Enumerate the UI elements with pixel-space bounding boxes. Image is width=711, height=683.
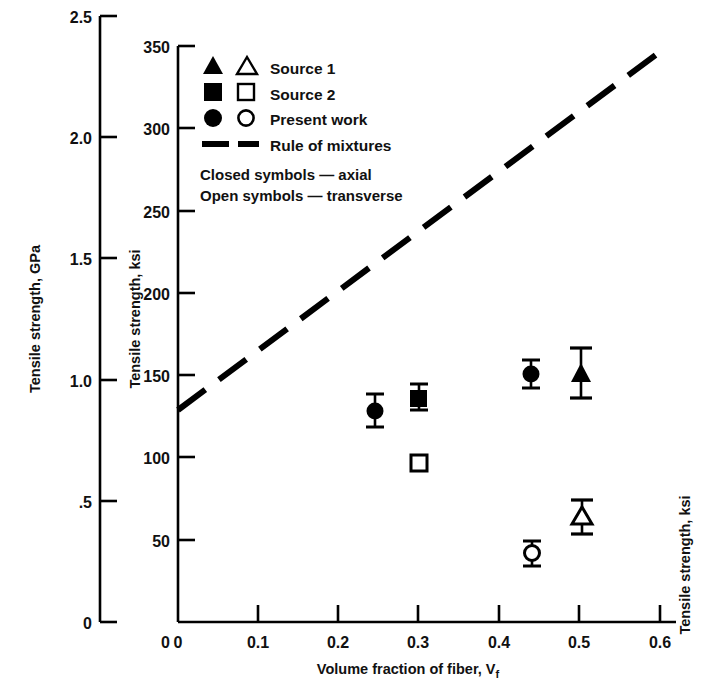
y-axis-label-gpa: Tensile strength, GPa xyxy=(27,244,43,393)
data-point-present-work-transverse xyxy=(523,541,541,566)
legend-note-open-symbols: Open symbols — transverse xyxy=(200,187,403,204)
x-tick-0.4: 0.4 xyxy=(488,634,510,651)
filled-circle-marker xyxy=(523,366,540,383)
y-axis-label-ksi-inner: Tensile strength, ksi xyxy=(127,249,143,388)
gpa-tick-0: 0 xyxy=(83,615,92,632)
ksi-tick-200: 200 xyxy=(143,286,170,303)
gpa-tick-labels: 2.5 2.0 1.5 1.0 .5 0 xyxy=(70,9,92,632)
legend-label-source-2: Source 2 xyxy=(270,86,335,103)
ksi-tick-250: 250 xyxy=(143,204,170,221)
legend-row-present-work: Present work xyxy=(204,109,368,128)
legend-filled-triangle-icon xyxy=(203,56,223,74)
ksi-tick-labels: 350 300 250 200 150 100 50 0 xyxy=(143,39,170,651)
open-square-marker xyxy=(411,455,427,471)
gpa-tick-0.5: .5 xyxy=(79,494,92,511)
ksi-tick-300: 300 xyxy=(143,121,170,138)
ksi-tick-50: 50 xyxy=(152,533,170,550)
filled-triangle-marker xyxy=(571,363,591,382)
filled-square-marker xyxy=(410,390,427,407)
x-axis-ticks xyxy=(258,605,660,622)
x-tick-labels: 0 0.1 0.2 0.3 0.4 0.5 0.6 xyxy=(174,634,672,651)
ksi-tick-100: 100 xyxy=(143,450,170,467)
gpa-axis xyxy=(100,16,117,622)
x-tick-0.5: 0.5 xyxy=(568,634,590,651)
legend-open-square-icon xyxy=(238,84,254,100)
legend-label-present-work: Present work xyxy=(270,111,368,128)
gpa-tick-1.5: 1.5 xyxy=(70,251,92,268)
x-tick-0.3: 0.3 xyxy=(407,634,429,651)
data-point-source1-transverse xyxy=(571,500,593,534)
gpa-tick-2.5: 2.5 xyxy=(70,9,92,26)
legend-label-source-1: Source 1 xyxy=(270,60,336,77)
legend: Source 1 Source 2 Present work Rule of m… xyxy=(200,56,403,204)
data-point-source1-axial xyxy=(570,348,592,398)
legend-row-source-2: Source 2 xyxy=(204,83,335,103)
filled-circle-marker xyxy=(367,403,384,420)
x-axis-label-text: Volume fraction of fiber, V xyxy=(317,661,496,677)
x-tick-0.6: 0.6 xyxy=(649,634,671,651)
rule-of-mixtures-line xyxy=(178,48,665,410)
legend-row-rule-of-mixtures: Rule of mixtures xyxy=(202,137,391,154)
data-point-present-work-axial-1 xyxy=(366,394,384,427)
ksi-tick-0: 0 xyxy=(161,634,170,651)
x-axis-label: Volume fraction of fiber, Vf xyxy=(317,661,500,680)
ksi-tick-150: 150 xyxy=(143,368,170,385)
legend-open-triangle-icon xyxy=(237,57,257,74)
gpa-tick-2.0: 2.0 xyxy=(70,130,92,147)
tensile-strength-scatter-chart: 2.5 2.0 1.5 1.0 .5 0 Tensile strength, G… xyxy=(0,0,711,683)
figure-container: 2.5 2.0 1.5 1.0 .5 0 Tensile strength, G… xyxy=(0,0,711,683)
legend-filled-circle-icon xyxy=(204,109,222,127)
y-axis-label-ksi-far-right: Tensile strength, ksi xyxy=(677,495,693,634)
ksi-tick-350: 350 xyxy=(143,39,170,56)
legend-row-source-1: Source 1 xyxy=(203,56,336,77)
legend-filled-square-icon xyxy=(204,83,222,101)
ksi-axis xyxy=(178,46,676,622)
legend-note-closed-symbols: Closed symbols — axial xyxy=(200,166,372,183)
x-axis-label-subscript: f xyxy=(495,668,499,680)
open-circle-marker xyxy=(525,546,540,561)
gpa-tick-1.0: 1.0 xyxy=(70,373,92,390)
data-point-present-work-axial-2 xyxy=(522,360,540,388)
legend-label-rule-of-mixtures: Rule of mixtures xyxy=(270,137,391,154)
legend-open-circle-icon xyxy=(238,110,253,125)
open-triangle-marker xyxy=(572,507,592,524)
data-point-source2-axial xyxy=(410,384,428,410)
x-tick-0.2: 0.2 xyxy=(327,634,349,651)
x-tick-0.1: 0.1 xyxy=(247,634,269,651)
data-point-source2-transverse xyxy=(411,455,427,471)
x-tick-0: 0 xyxy=(174,634,183,651)
